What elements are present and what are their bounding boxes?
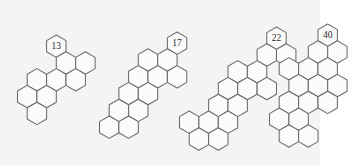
structure-40-canvas: 40 xyxy=(266,22,351,149)
hexagon-cell xyxy=(27,102,46,124)
hexagon-cell xyxy=(279,125,298,147)
structure-13: 13 xyxy=(14,33,99,127)
structure-40: 40 xyxy=(266,22,351,149)
structure-13-label: 13 xyxy=(52,41,62,51)
hexagon-cell xyxy=(119,116,138,138)
hexagon-cell xyxy=(66,69,85,91)
hexagon-cell xyxy=(318,91,337,113)
hexagon-cell xyxy=(189,128,208,150)
structure-40-label: 40 xyxy=(323,30,333,40)
hexagon-cell xyxy=(99,116,118,138)
hexagon-cell xyxy=(299,125,318,147)
hexagon-cell xyxy=(209,128,228,150)
structure-13-canvas: 13 xyxy=(14,33,99,127)
